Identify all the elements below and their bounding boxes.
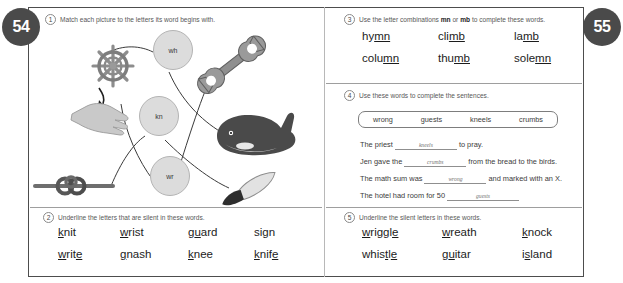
sentence-4-before: The hotel had room for 50 [360, 191, 445, 200]
sentence-1-before: The priest [360, 140, 393, 149]
word-wreath[interactable]: wreath [442, 226, 522, 238]
sentence-2-before: Jen gave the [360, 157, 402, 166]
exercise-5-instruction: Underline the silent letters in these wo… [359, 214, 481, 221]
exercise-3-number: 3 [344, 14, 355, 25]
sentence-2-after: from the bread to the birds. [468, 157, 557, 166]
word-bank-item-guests[interactable]: guests [421, 115, 443, 124]
exercise-4-word-bank: wrong guests kneels crumbs [358, 111, 558, 128]
exercise-4-sentence-1: The priest kneels to pray. [360, 140, 483, 150]
exercise-4-instruction: Use these words to complete the sentence… [359, 92, 489, 99]
word-gnash[interactable]: gnash [120, 248, 188, 260]
exercise-2-heading: 2 Underline the letters that are silent … [43, 212, 205, 223]
match-circle-kn[interactable]: kn [139, 96, 179, 136]
sentence-4-blank[interactable]: guests [447, 193, 519, 201]
exercise-5-row-2: whistle guitar island [362, 248, 572, 260]
exercise-4-sentence-3: The math sum was wrong and marked with a… [360, 174, 562, 184]
word-thumb[interactable]: thumb [438, 52, 514, 64]
knot-picture [35, 177, 113, 194]
exercise-4-sentence-4: The hotel had room for 50 guests [360, 191, 521, 201]
match-circle-wr[interactable]: wr [150, 156, 190, 196]
whale-picture [217, 113, 295, 155]
exercise-2-number: 2 [43, 212, 54, 223]
exercise-4-number: 4 [344, 90, 355, 101]
word-knock[interactable]: knock [522, 226, 552, 238]
page-number-badge-left: 54 [2, 8, 40, 46]
right-page-separator-2 [326, 207, 582, 208]
word-solemn[interactable]: solemn [514, 52, 551, 64]
word-knee[interactable]: knee [188, 248, 254, 260]
word-write[interactable]: write [58, 248, 120, 260]
exercise-3-heading: 3 Use the letter combinations mn or mb t… [344, 14, 545, 25]
word-bank-item-crumbs[interactable]: crumbs [519, 115, 543, 124]
left-page-separator [30, 207, 322, 208]
exercise-5-heading: 5 Underline the silent letters in these … [344, 212, 481, 223]
sentence-2-blank[interactable]: crumbs [404, 159, 466, 167]
sentence-3-before: The math sum was [360, 174, 422, 183]
word-column[interactable]: column [362, 52, 438, 64]
wrench-picture [194, 32, 270, 97]
word-whistle[interactable]: whistle [362, 248, 442, 260]
exercise-1-matching-area[interactable]: wh kn wr [29, 22, 323, 206]
knife-picture [217, 171, 280, 206]
exercise-5-row-1: wriggle wreath knock [362, 226, 572, 238]
match-circle-wh[interactable]: wh [153, 30, 193, 70]
sentence-1-after: to pray. [459, 140, 483, 149]
word-guard[interactable]: guard [188, 226, 254, 238]
worksheet-page: 54 55 1 Match each picture to the letter… [0, 0, 623, 283]
exercise-3-row-2: column thumb solemn [362, 52, 562, 64]
ships-wheel-picture [93, 46, 133, 86]
word-hymn[interactable]: hymn [362, 30, 438, 42]
word-lamb[interactable]: lamb [514, 30, 539, 42]
word-wriggle[interactable]: wriggle [362, 226, 442, 238]
word-sign[interactable]: sign [254, 226, 275, 238]
page-number-badge-right: 55 [583, 8, 621, 46]
exercise-4-heading: 4 Use these words to complete the senten… [344, 90, 489, 101]
hand-wrist-picture [71, 88, 128, 135]
word-bank-item-kneels[interactable]: kneels [470, 115, 491, 124]
word-knit[interactable]: knit [58, 226, 120, 238]
exercise-2-row-2: write gnash knee knife [58, 248, 308, 260]
word-bank-item-wrong[interactable]: wrong [373, 115, 393, 124]
word-climb[interactable]: climb [438, 30, 514, 42]
exercise-3-instruction: Use the letter combinations mn or mb to … [359, 16, 545, 23]
word-knife[interactable]: knife [254, 248, 278, 260]
word-island[interactable]: island [522, 248, 552, 260]
page-gutter-line [324, 7, 325, 277]
right-page-separator-1 [326, 83, 582, 84]
exercise-3-row-1: hymn climb lamb [362, 30, 562, 42]
exercise-2-row-1: knit wrist guard sign [58, 226, 308, 238]
exercise-4-sentence-2: Jen gave the crumbs from the bread to th… [360, 157, 557, 167]
word-wrist[interactable]: wrist [120, 226, 188, 238]
sentence-3-after: and marked with an X. [488, 174, 562, 183]
exercise-2-instruction: Underline the letters that are silent in… [58, 214, 205, 221]
word-guitar[interactable]: guitar [442, 248, 522, 260]
sentence-3-blank[interactable]: wrong [424, 176, 486, 184]
sentence-1-blank[interactable]: kneels [395, 142, 457, 150]
exercise-5-number: 5 [344, 212, 355, 223]
